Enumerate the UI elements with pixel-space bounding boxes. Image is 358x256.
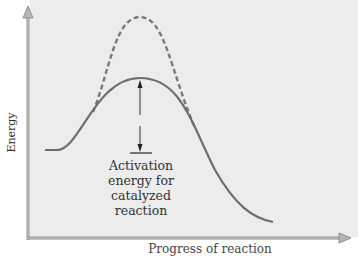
y-axis — [23, 6, 33, 240]
arrow-down-icon — [138, 144, 143, 152]
activation-energy-marker — [130, 80, 152, 153]
x-axis-label: Progress of reaction — [130, 242, 290, 256]
annotation-line: catalyzed — [100, 188, 182, 203]
arrow-up-icon — [138, 80, 143, 88]
y-axis-arrow-icon — [23, 6, 33, 18]
annotation-line: energy for — [100, 173, 182, 188]
y-axis-label: Energy — [5, 108, 18, 158]
annotation-line: Activation — [100, 158, 182, 173]
x-axis-arrow-icon — [339, 233, 351, 243]
uncatalyzed-curve — [93, 17, 195, 128]
annotation-line: reaction — [100, 203, 182, 218]
activation-energy-label: Activation energy for catalyzed reaction — [100, 158, 182, 218]
